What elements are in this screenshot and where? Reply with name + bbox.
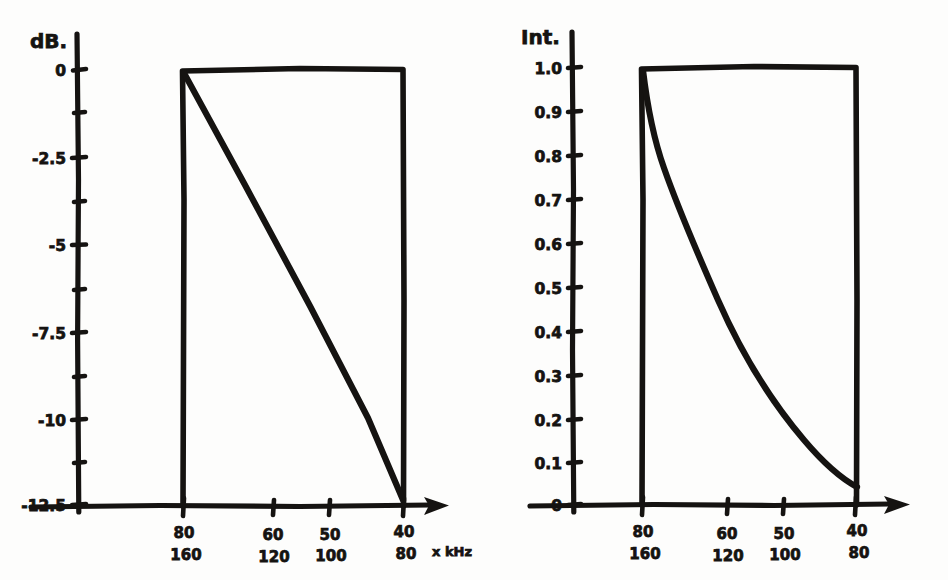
right-x-label-top-40: 40 xyxy=(847,522,868,540)
right-envelope-box xyxy=(642,67,858,506)
right-y-tick-0.9 xyxy=(568,111,581,112)
right-y-tick-0.1 xyxy=(568,462,581,463)
right-y-label-0: 0 xyxy=(551,497,562,515)
left-y-tick-5 xyxy=(72,245,86,246)
left-x-label-bottom-80: 80 xyxy=(396,545,417,563)
right-y-label-0.9: 0.9 xyxy=(535,104,562,122)
chart-left-db: dB. 0 -2.5 -5 -7.5 -10 -12.5 80 60 50 40… xyxy=(0,0,474,580)
right-y-label-0.1: 0.1 xyxy=(535,455,562,473)
left-y-label-7.5: -7.5 xyxy=(32,325,66,343)
left-y-axis xyxy=(77,34,79,512)
left-y-tick-12.5 xyxy=(72,504,86,505)
right-y-tick-0.8 xyxy=(568,155,581,156)
left-y-label-2.5: -2.5 xyxy=(32,150,66,168)
chart-right-svg: Int. 1.0 0.9 0.8 0.7 0.6 0.5 0.4 0.3 0.2… xyxy=(474,0,948,580)
left-y-tick-minor2 xyxy=(74,201,85,202)
right-y-tick-0 xyxy=(568,504,581,505)
left-x-label-top-80: 80 xyxy=(174,524,195,542)
left-y-label-5: -5 xyxy=(49,237,66,255)
left-x-label-bottom-100: 100 xyxy=(315,547,346,565)
left-y-label-12.5: -12.5 xyxy=(21,497,66,515)
left-y-tick-2.5 xyxy=(72,157,86,158)
chart-right-intensity: Int. 1.0 0.9 0.8 0.7 0.6 0.5 0.4 0.3 0.2… xyxy=(474,0,948,580)
right-y-tick-0.6 xyxy=(568,243,581,244)
left-x-tick-60 xyxy=(273,500,274,515)
right-y-tick-0.4 xyxy=(568,331,581,332)
right-y-label-0.8: 0.8 xyxy=(535,148,562,166)
chart-left-svg: dB. 0 -2.5 -5 -7.5 -10 -12.5 80 60 50 40… xyxy=(0,0,474,580)
left-x-label-bottom-120: 120 xyxy=(258,548,289,566)
right-y-label-0.5: 0.5 xyxy=(535,280,562,298)
left-y-tick-10 xyxy=(72,419,86,420)
right-y-label-0.4: 0.4 xyxy=(535,324,563,342)
right-x-tick-50 xyxy=(783,499,784,514)
right-y-tick-0.3 xyxy=(568,375,581,376)
right-y-label-0.3: 0.3 xyxy=(535,368,562,386)
left-y-label-0: 0 xyxy=(55,62,66,80)
right-x-axis xyxy=(530,504,890,506)
left-axis-title: dB. xyxy=(30,29,67,53)
right-x-label-top-50: 50 xyxy=(774,525,795,543)
right-y-label-0.7: 0.7 xyxy=(535,192,562,210)
sketch-sheet: dB. 0 -2.5 -5 -7.5 -10 -12.5 80 60 50 40… xyxy=(0,0,948,580)
right-y-label-0.2: 0.2 xyxy=(535,412,562,430)
left-x-label-top-40: 40 xyxy=(394,523,415,541)
left-x-unit-label: x kHz xyxy=(432,544,472,559)
left-y-label-10: -10 xyxy=(38,412,66,430)
left-x-axis xyxy=(31,505,430,507)
left-x-label-top-50: 50 xyxy=(320,526,341,544)
right-x-label-bottom-120: 120 xyxy=(712,547,743,565)
right-y-label-1.0: 1.0 xyxy=(535,60,563,78)
right-x-tick-60 xyxy=(727,499,728,514)
right-x-label-bottom-100: 100 xyxy=(769,546,800,564)
right-axis-title: Int. xyxy=(521,25,560,49)
right-y-label-0.6: 0.6 xyxy=(535,236,562,254)
right-y-tick-0.7 xyxy=(568,199,581,200)
right-y-tick-0.2 xyxy=(568,419,581,420)
left-y-tick-minor1 xyxy=(74,112,85,113)
right-intensity-decay-curve xyxy=(643,70,857,487)
right-x-label-bottom-160: 160 xyxy=(629,545,660,563)
left-y-tick-minor5 xyxy=(74,462,85,463)
left-x-label-bottom-160: 160 xyxy=(170,546,201,564)
left-x-label-top-60: 60 xyxy=(263,526,284,544)
right-y-tick-0.5 xyxy=(568,287,581,288)
right-x-label-top-80: 80 xyxy=(633,523,654,541)
right-x-label-bottom-80: 80 xyxy=(849,544,870,562)
left-response-ramp xyxy=(184,73,403,500)
right-y-axis xyxy=(572,32,574,512)
right-x-label-top-60: 60 xyxy=(717,525,738,543)
left-y-tick-7.5 xyxy=(72,332,86,333)
left-y-tick-minor4 xyxy=(74,376,85,377)
left-y-tick-0 xyxy=(73,69,86,71)
right-y-tick-1.0 xyxy=(568,67,581,68)
left-x-tick-50 xyxy=(329,500,330,515)
left-y-tick-minor3 xyxy=(74,289,85,290)
